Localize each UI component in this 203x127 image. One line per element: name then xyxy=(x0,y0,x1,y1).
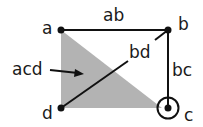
vertex-b xyxy=(165,27,172,34)
vertex-c xyxy=(165,105,172,112)
label-bc: bc xyxy=(172,60,192,80)
label-bd: bd xyxy=(129,42,151,62)
label-c: c xyxy=(184,105,193,125)
label-d: d xyxy=(42,103,53,123)
vertex-d xyxy=(58,105,65,112)
label-b: b xyxy=(178,14,189,34)
simplicial-complex-diagram: a ab b bd bc acd d c xyxy=(0,0,203,127)
vertex-a xyxy=(58,27,65,34)
label-ab: ab xyxy=(103,5,124,25)
label-acd: acd xyxy=(12,59,43,79)
label-a: a xyxy=(42,18,52,38)
